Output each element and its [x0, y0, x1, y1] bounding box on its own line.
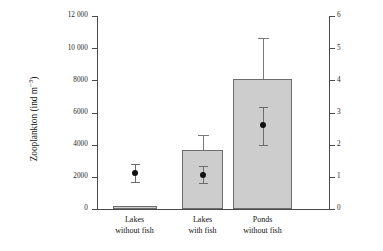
- right-axis-tick: [330, 80, 335, 81]
- bar-error-cap-2: [198, 135, 209, 136]
- left-axis-tick-label: 12 000: [36, 11, 88, 19]
- right-axis-tick: [330, 113, 335, 114]
- left-axis-tick-label: 2000: [36, 172, 88, 180]
- x-axis-line: [97, 209, 330, 210]
- left-axis-tick-label: 8000: [36, 76, 88, 84]
- left-axis-title-close: ): [29, 77, 39, 80]
- chlorophyll-error-cap-upper-1: [131, 164, 140, 165]
- right-axis-tick: [330, 177, 335, 178]
- left-axis-title-exponent: −3: [27, 80, 34, 87]
- category-label-line2-3: without fish: [218, 226, 308, 237]
- left-axis-tick: [92, 177, 97, 178]
- right-axis-tick-label: 4: [337, 76, 377, 84]
- left-axis-tick-label: 0: [36, 204, 88, 212]
- chlorophyll-point-1: [132, 170, 138, 176]
- right-axis-tick-label: 6: [337, 11, 377, 19]
- right-axis-tick: [330, 48, 335, 49]
- chlorophyll-point-2: [200, 172, 206, 178]
- right-axis-tick-label: 1: [337, 172, 377, 180]
- left-axis-tick: [92, 16, 97, 17]
- bar-1: [113, 206, 157, 209]
- category-label-line1-3: Ponds: [218, 215, 308, 226]
- left-axis-tick-label: 6000: [36, 108, 88, 116]
- right-axis-tick: [330, 16, 335, 17]
- chlorophyll-error-cap-upper-2: [199, 166, 208, 167]
- left-axis-tick: [92, 80, 97, 81]
- bar-error-line-3: [263, 38, 264, 79]
- chlorophyll-error-cap-lower-1: [131, 182, 140, 183]
- left-axis-line: [97, 16, 98, 210]
- left-axis-tick: [92, 48, 97, 49]
- left-axis-tick: [92, 113, 97, 114]
- left-axis-title: Zooplankton (ind m−3): [27, 24, 39, 214]
- chlorophyll-point-3: [260, 122, 266, 128]
- left-axis-tick-label: 10 000: [36, 44, 88, 52]
- right-axis-tick-label: 0: [337, 204, 377, 212]
- right-axis-tick-label: 2: [337, 140, 377, 148]
- chlorophyll-error-cap-lower-2: [199, 183, 208, 184]
- left-axis-tick: [92, 145, 97, 146]
- chlorophyll-error-cap-lower-3: [259, 145, 268, 146]
- bar-error-line-2: [203, 135, 204, 150]
- right-axis-tick: [330, 209, 335, 210]
- left-axis-title-text: Zooplankton (ind m: [29, 87, 39, 161]
- figure-chart: 0200040006000800010 00012 000 0123456 Zo…: [0, 0, 383, 251]
- chlorophyll-error-cap-upper-3: [259, 107, 268, 108]
- left-axis-tick-label: 4000: [36, 140, 88, 148]
- right-axis-tick: [330, 145, 335, 146]
- left-axis-tick: [92, 209, 97, 210]
- category-label-3: Pondswithout fish: [218, 215, 308, 236]
- bar-error-cap-3: [258, 38, 269, 39]
- right-axis-tick-label: 5: [337, 44, 377, 52]
- right-axis-tick-label: 3: [337, 108, 377, 116]
